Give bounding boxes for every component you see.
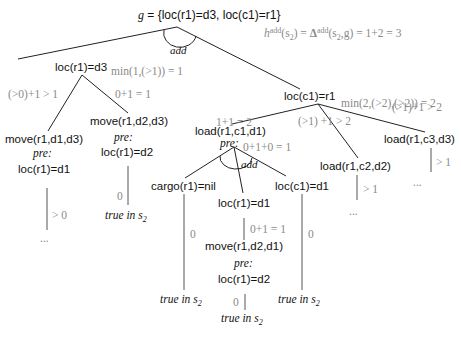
- pre-label-load-c1: pre:: [220, 137, 239, 149]
- edge-label-load-c3: (>1)+1 > 2: [392, 101, 442, 113]
- zero-label-d2: 0: [117, 190, 123, 202]
- pre-label-move-d1: pre:: [33, 147, 52, 159]
- and-or-tree-diagram: g = {loc(r1)=d3, loc(c1)=r1} add hadd(s2…: [0, 0, 461, 339]
- h-arg-close: ) =: [294, 27, 310, 39]
- true-in-sub: 2: [143, 215, 147, 224]
- root-add-label: add: [170, 44, 187, 56]
- node-load-r1-c2-d2: load(r1,c2,d2): [320, 160, 391, 172]
- zero-label-locc1: 0: [308, 228, 314, 240]
- pre-label-move-d2-d1: pre:: [234, 257, 253, 269]
- pre-label-move-d2: pre:: [114, 131, 133, 143]
- goal-set: g = {loc(r1)=d3, loc(c1)=r1}: [138, 8, 280, 23]
- node-load-r1-c3-d3: load(r1,c3,d3): [384, 133, 455, 145]
- true-in-sub: 2: [316, 299, 320, 308]
- delta-args-open: (s: [328, 27, 336, 39]
- node-loc-r1-d3: loc(r1)=d3: [55, 61, 107, 73]
- node-cargo-r1-nil: cargo(r1)=nil: [151, 180, 216, 192]
- goal-set-text: {loc(r1)=d3, loc(c1)=r1}: [158, 8, 281, 22]
- true-in-sub: 2: [198, 299, 202, 308]
- gt1-label-c2: > 1: [363, 183, 378, 195]
- node-loc-c1-r1: loc(c1)=r1: [284, 90, 335, 102]
- delta-args-close: ,g) = 1+2 = 3: [341, 27, 402, 39]
- delta-sup: add: [317, 26, 329, 35]
- equals-sign: =: [144, 8, 158, 22]
- ellipsis-c2: ...: [349, 205, 358, 217]
- gt0-label: > 0: [52, 209, 67, 221]
- true-in-text: true in s: [160, 293, 198, 305]
- pre-add-label: add: [241, 158, 258, 170]
- true-in-s2-cargo: true in s2: [160, 293, 202, 308]
- edge-label-load-c2: (>1) +1 > 2: [298, 115, 351, 127]
- node-move-r1-d2-d1: move(r1,d2,d1): [205, 240, 283, 252]
- true-in-text: true in s: [221, 312, 259, 324]
- node-loc-c1-d1: loc(c1)=d1: [275, 180, 329, 192]
- node-pre-loc-r1-d1: loc(r1)=d1: [18, 163, 70, 175]
- node-load-r1-c1-d1: load(r1,c1,d1): [195, 125, 266, 137]
- h-sup: add: [270, 26, 282, 35]
- true-in-s2-locc1: true in s2: [278, 293, 320, 308]
- ellipsis-c3: ...: [413, 176, 422, 188]
- true-in-text: true in s: [105, 209, 143, 221]
- node-pre-loc-r1-d2: loc(r1)=d2: [101, 146, 153, 158]
- ellipsis-move-d1: ...: [40, 232, 49, 244]
- true-in-text: true in s: [278, 293, 316, 305]
- edge-label-move-d1: (>0)+1 > 1: [8, 88, 58, 100]
- gt1-label-c3: > 1: [436, 156, 451, 168]
- node-move-r1-d1-d3: move(r1,d1,d3): [5, 133, 83, 145]
- zero-label-cargo: 0: [190, 228, 196, 240]
- node-move-r1-d2-d3: move(r1,d2,d3): [90, 115, 168, 127]
- delta-symbol: Δ: [310, 27, 317, 39]
- true-in-s2-bottom: true in s2: [221, 312, 263, 327]
- zero-label-bottom: 0: [233, 296, 239, 308]
- true-in-sub: 2: [259, 318, 263, 327]
- heuristic-formula: hadd(s2) = Δadd(s2,g) = 1+2 = 3: [264, 26, 401, 42]
- node-pre-loc-r1-d2-bottom: loc(r1)=d2: [218, 273, 270, 285]
- edge-label-move-d2: 0+1 = 1: [115, 88, 151, 100]
- load-c1-sum-label: 0+1+0 = 1: [243, 141, 291, 153]
- min-left-label: min(1,(>1)) = 1: [111, 65, 183, 77]
- node-loc-r1-d1-mid: loc(r1)=d1: [218, 197, 270, 209]
- true-in-s2-d2: true in s2: [105, 209, 147, 224]
- h-arg-open: (s: [281, 27, 289, 39]
- mid-sum-label: 0+1 = 1: [250, 223, 286, 235]
